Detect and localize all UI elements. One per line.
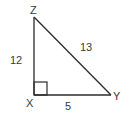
- side-zy-hypotenuse: [34, 17, 111, 95]
- side-label-xz: 12: [10, 55, 22, 66]
- vertex-label-x: X: [26, 98, 33, 109]
- vertex-label-y: Y: [113, 91, 120, 102]
- side-label-xy: 5: [65, 101, 71, 112]
- side-label-zy: 13: [80, 42, 92, 53]
- right-angle-marker: [34, 82, 47, 95]
- vertex-label-z: Z: [30, 5, 37, 16]
